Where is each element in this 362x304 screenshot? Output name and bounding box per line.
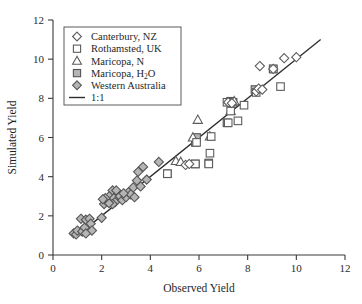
data-point bbox=[240, 101, 248, 109]
x-tick-label: 2 bbox=[99, 262, 105, 274]
y-tick-label: 8 bbox=[39, 92, 45, 104]
y-tick-label: 10 bbox=[33, 53, 45, 65]
data-point bbox=[193, 139, 201, 147]
data-point bbox=[234, 117, 242, 125]
data-point bbox=[280, 54, 289, 63]
y-tick-label: 4 bbox=[39, 171, 45, 183]
legend-label: Rothamsted, UK bbox=[91, 43, 162, 54]
y-tick-label: 2 bbox=[39, 210, 45, 222]
data-point bbox=[224, 119, 232, 127]
x-tick-label: 6 bbox=[196, 262, 202, 274]
legend-marker-square-filled bbox=[73, 69, 80, 76]
legend-label: 1:1 bbox=[91, 92, 104, 103]
series-western-australia bbox=[69, 157, 163, 239]
data-point bbox=[206, 149, 214, 157]
legend-label: Maricopa, N bbox=[91, 56, 144, 67]
data-point bbox=[97, 213, 106, 222]
data-point bbox=[193, 115, 202, 123]
y-tick-label: 12 bbox=[33, 14, 44, 26]
chart-canvas: 024681012024681012 Canterbury, NZRothams… bbox=[0, 0, 362, 304]
data-point bbox=[154, 157, 163, 166]
data-point bbox=[205, 160, 213, 168]
x-tick-label: 8 bbox=[245, 262, 251, 274]
data-point bbox=[277, 83, 285, 91]
y-tick-label: 0 bbox=[39, 249, 45, 261]
legend: Canterbury, NZRothamsted, UKMaricopa, NM… bbox=[64, 27, 181, 105]
data-point bbox=[255, 61, 264, 70]
x-tick-label: 4 bbox=[148, 262, 154, 274]
data-point bbox=[292, 53, 301, 62]
y-axis-title: Simulated Yield bbox=[6, 100, 18, 174]
data-point bbox=[227, 107, 235, 115]
x-tick-label: 0 bbox=[50, 262, 56, 274]
legend-marker-square-open bbox=[73, 45, 80, 52]
legend-label: Western Australia bbox=[91, 80, 166, 91]
data-point bbox=[164, 170, 172, 178]
legend-label: Canterbury, NZ bbox=[91, 31, 157, 42]
y-tick-label: 6 bbox=[39, 132, 45, 144]
x-tick-label: 12 bbox=[340, 262, 351, 274]
x-axis-title: Observed Yield bbox=[163, 282, 235, 294]
data-point bbox=[207, 133, 215, 141]
x-tick-label: 10 bbox=[291, 262, 303, 274]
scatter-plot-figure: 024681012024681012 Canterbury, NZRothams… bbox=[0, 0, 362, 304]
